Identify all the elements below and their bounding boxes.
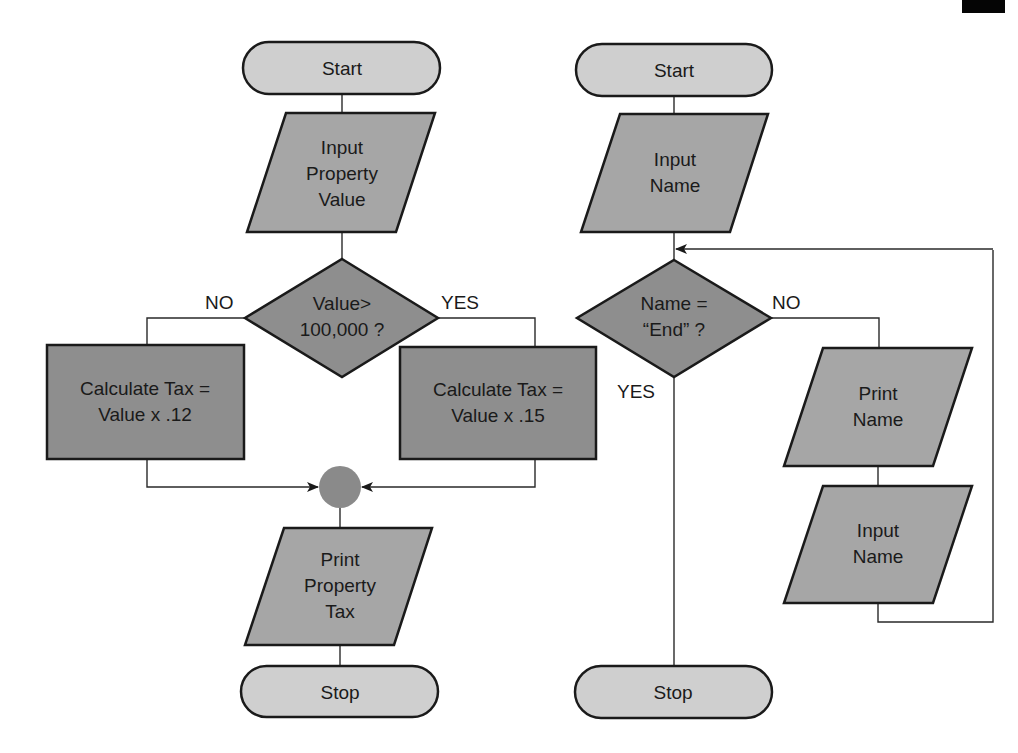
stop-label: Stop <box>653 682 692 703</box>
decision-label-line: 100,000 ? <box>300 319 385 340</box>
io-label-line: Name <box>650 175 701 196</box>
flow-arrow-right-merge <box>362 459 535 487</box>
process-label-line: Calculate Tax = <box>433 379 563 400</box>
io-label-line: Name <box>853 409 904 430</box>
start-label: Start <box>654 60 695 81</box>
io-label-line: Value <box>318 189 365 210</box>
io-label-line: Input <box>857 520 900 541</box>
output-property-tax: Print Property Tax <box>245 528 432 645</box>
left-flowchart: Start Input Property Value Value> 100,00… <box>47 42 596 717</box>
input-name-loop: Input Name <box>784 486 972 603</box>
branch-label-yes: YES <box>617 381 655 402</box>
io-label-line: Input <box>321 137 364 158</box>
branch-label-no: NO <box>772 292 801 313</box>
io-label-line: Name <box>853 546 904 567</box>
process-label-line: Value x .15 <box>451 405 545 426</box>
process-label-line: Calculate Tax = <box>80 378 210 399</box>
process-tax-12: Calculate Tax = Value x .12 <box>47 345 244 459</box>
io-label-line: Tax <box>325 601 355 622</box>
input-name: Input Name <box>581 114 768 232</box>
start-label: Start <box>322 58 363 79</box>
branch-label-yes: YES <box>441 292 479 313</box>
input-property-value: Input Property Value <box>247 113 435 232</box>
right-flowchart: Start Input Name Name = “End” ? NO YES P… <box>575 44 993 718</box>
io-label-line: Property <box>306 163 378 184</box>
flow-line-no <box>147 318 245 345</box>
decision-label-line: “End” ? <box>643 319 705 340</box>
decision-label-line: Name = <box>640 293 707 314</box>
flowchart-canvas: Start Input Property Value Value> 100,00… <box>0 0 1018 753</box>
branch-label-no: NO <box>205 292 234 313</box>
io-label-line: Print <box>320 549 360 570</box>
merge-connector <box>319 466 361 508</box>
io-label-line: Input <box>654 149 697 170</box>
io-label-line: Print <box>858 383 898 404</box>
flow-arrow-left-merge <box>147 459 318 487</box>
io-label-line: Property <box>304 575 376 596</box>
process-tax-15: Calculate Tax = Value x .15 <box>400 347 596 459</box>
start-terminal: Start <box>576 44 772 96</box>
flow-line-yes <box>438 318 535 347</box>
process-label-line: Value x .12 <box>98 404 192 425</box>
stop-label: Stop <box>320 682 359 703</box>
decision-label-line: Value> <box>313 293 371 314</box>
stop-terminal: Stop <box>241 666 438 717</box>
output-name: Print Name <box>784 348 972 466</box>
start-terminal: Start <box>243 42 440 94</box>
flow-line-no <box>771 318 879 348</box>
stop-terminal: Stop <box>575 666 772 718</box>
decision-name-end: Name = “End” ? <box>577 260 771 377</box>
